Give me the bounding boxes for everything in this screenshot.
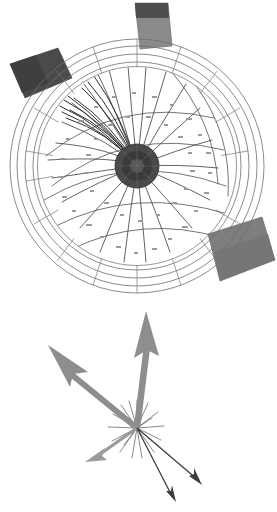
vector-b-quark-jet-up: [134, 311, 159, 428]
muon-chamber-lower-right: [208, 217, 275, 281]
detector-event-display: [0, 0, 277, 308]
vector-missing-momentum: [85, 428, 137, 462]
vector-b-quark-jet-upper-left: [48, 345, 137, 428]
physics-event-figure: b–quark jet b–quark jet missing momentum…: [0, 0, 277, 512]
detector-svg: [0, 0, 277, 308]
muon-chamber-upper-left: [10, 48, 72, 98]
interaction-vertex-core: [115, 144, 159, 188]
schematic-svg: [0, 300, 277, 512]
vector-electron: [137, 428, 202, 485]
vector-positron: [137, 428, 176, 502]
momentum-vector-diagram: b–quark jet b–quark jet missing momentum…: [0, 300, 277, 512]
